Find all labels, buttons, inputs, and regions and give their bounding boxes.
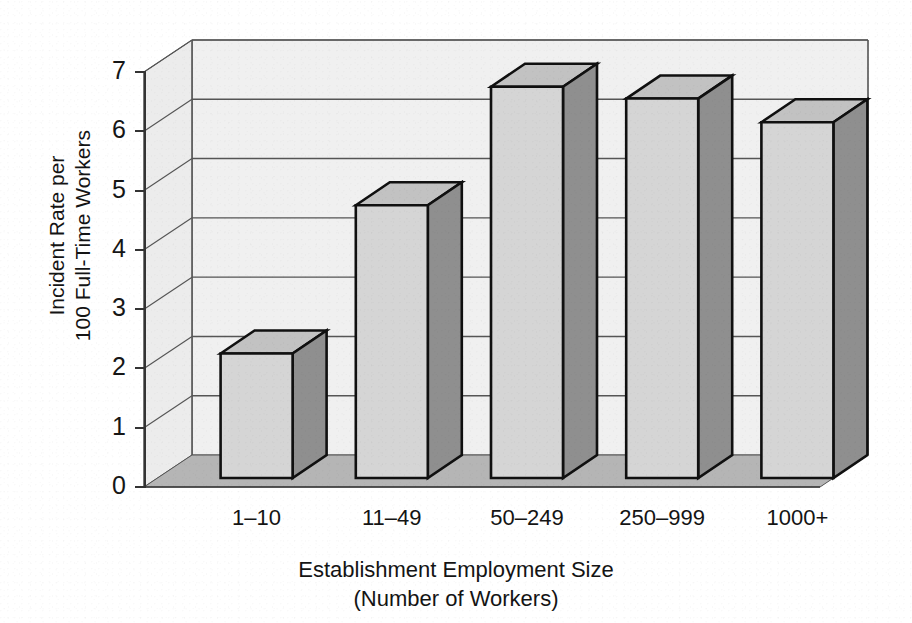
y-tick-label-1: 1 xyxy=(92,414,126,439)
y-tick-mark-6 xyxy=(135,130,146,132)
left-wall xyxy=(144,40,192,487)
y-tick-label-0: 0 xyxy=(92,473,126,498)
y-tick-label-3: 3 xyxy=(92,295,126,320)
y-tick-label-4: 4 xyxy=(92,236,126,261)
bar-1-front-face xyxy=(356,205,428,478)
bar-4-side-face xyxy=(833,99,867,478)
x-axis-title-line1: Establishment Employment Size xyxy=(0,556,912,585)
y-tick-mark-5 xyxy=(135,190,146,192)
bar-3-side-face xyxy=(698,76,732,478)
chart-figure: Incident Rate per 100 Full-Time Workers … xyxy=(0,0,912,623)
x-axis-title-line2: (Number of Workers) xyxy=(0,585,912,614)
y-tick-mark-3 xyxy=(135,308,146,310)
y-tick-mark-1 xyxy=(135,427,146,429)
bar-1-side-face xyxy=(428,182,462,478)
y-tick-mark-2 xyxy=(135,367,146,369)
bar-2-side-face xyxy=(563,64,597,478)
x-axis-title: Establishment Employment Size (Number of… xyxy=(0,556,912,613)
bar-0-side-face xyxy=(293,331,327,479)
x-tick-label-4: 1000+ xyxy=(717,507,877,529)
y-tick-mark-7 xyxy=(135,71,146,73)
y-axis-line xyxy=(144,72,146,487)
y-tick-mark-4 xyxy=(135,249,146,251)
y-tick-mark-0 xyxy=(135,486,146,488)
bar-4-front-face xyxy=(761,122,833,478)
y-tick-label-6: 6 xyxy=(92,117,126,142)
y-tick-label-7: 7 xyxy=(92,58,126,83)
y-tick-label-5: 5 xyxy=(92,177,126,202)
bar-3-front-face xyxy=(626,99,698,478)
bar-0-front-face xyxy=(221,354,293,479)
bar-2-front-face xyxy=(491,87,563,478)
y-tick-label-2: 2 xyxy=(92,354,126,379)
